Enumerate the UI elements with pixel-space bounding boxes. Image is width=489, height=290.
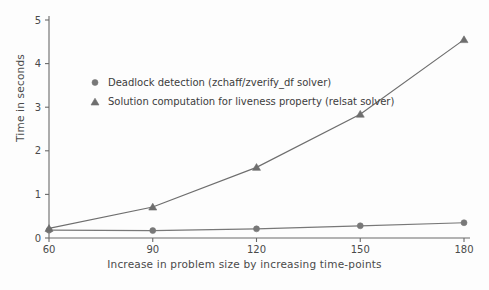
x-axis-tick-label: 120: [247, 244, 266, 255]
x-axis-tick-label: 150: [351, 244, 370, 255]
data-point-marker: [150, 228, 156, 234]
y-axis-tick-label: 3: [35, 102, 41, 113]
series-2: [45, 36, 468, 232]
y-axis-tick-label: 0: [35, 233, 41, 244]
y-axis-tick-label: 5: [35, 15, 41, 26]
y-axis-tick-label: 2: [35, 145, 41, 156]
legend-marker-circle-icon: [92, 80, 98, 86]
x-axis-label: Increase in problem size by increasing t…: [0, 258, 489, 270]
data-point-marker: [356, 110, 364, 117]
series-layer: [45, 36, 468, 234]
x-axis-tick-label: 90: [146, 244, 159, 255]
series-line-2: [49, 40, 464, 229]
data-point-marker: [254, 226, 260, 232]
legend-item-1[interactable]: Deadlock detection (zchaff/zverify_df so…: [92, 77, 331, 89]
data-point-marker: [460, 36, 468, 43]
legend-item-2[interactable]: Solution computation for liveness proper…: [91, 96, 394, 107]
x-axis-tick-label: 60: [43, 244, 56, 255]
y-axis-tick-label: 4: [35, 58, 41, 69]
y-axis-tick-label: 1: [35, 189, 41, 200]
line-chart-plot: 0123456090120150180 Deadlock detection (…: [0, 0, 489, 290]
axis-layer: 0123456090120150180: [35, 15, 474, 255]
data-point-marker: [461, 220, 467, 226]
legend-label-1: Deadlock detection (zchaff/zverify_df so…: [108, 77, 331, 89]
series-1: [46, 220, 467, 234]
data-point-marker: [357, 223, 363, 229]
data-point-marker: [253, 164, 261, 171]
x-axis-tick-label: 180: [454, 244, 473, 255]
chart-figure: Time in seconds 0123456090120150180 Dead…: [0, 0, 489, 290]
chart-legend: Deadlock detection (zchaff/zverify_df so…: [91, 77, 394, 107]
data-point-marker: [149, 203, 157, 210]
legend-label-2: Solution computation for liveness proper…: [108, 96, 394, 107]
legend-marker-triangle-icon: [91, 98, 99, 105]
